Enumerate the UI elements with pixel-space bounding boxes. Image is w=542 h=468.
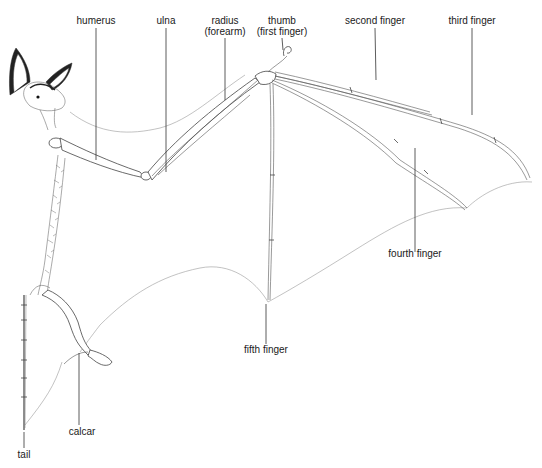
fingers bbox=[268, 72, 530, 300]
label-ulna: ulna bbox=[157, 15, 176, 26]
label-fifth-finger: fifth finger bbox=[244, 344, 289, 355]
bat-tail bbox=[21, 295, 27, 430]
arm-bones bbox=[60, 78, 260, 180]
bat-wing-diagram: humerus ulna radius (forearm) thumb (fir… bbox=[0, 0, 542, 468]
label-thumb-first-finger: (first finger) bbox=[257, 26, 308, 37]
leader-thumb bbox=[282, 38, 283, 50]
label-humerus: humerus bbox=[77, 15, 116, 26]
label-second-finger: second finger bbox=[345, 15, 406, 26]
label-thumb: thumb bbox=[268, 15, 296, 26]
label-fourth-finger: fourth finger bbox=[388, 248, 442, 259]
bat-leg bbox=[42, 290, 112, 365]
leader-second-finger bbox=[375, 28, 376, 80]
label-third-finger: third finger bbox=[448, 15, 496, 26]
label-tail: tail bbox=[18, 449, 31, 460]
label-calcar: calcar bbox=[69, 426, 96, 437]
bat-body bbox=[9, 48, 72, 295]
humerus-bone bbox=[60, 138, 145, 178]
wrist-thumb bbox=[255, 47, 291, 85]
thumb-claw bbox=[283, 47, 291, 56]
label-radius: radius bbox=[211, 15, 238, 26]
label-radius-forearm: (forearm) bbox=[204, 26, 245, 37]
